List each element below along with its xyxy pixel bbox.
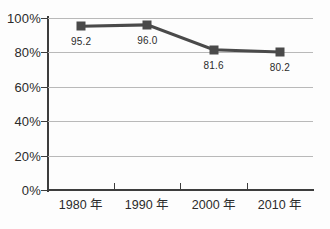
x-axis-label-1990: 1990 年 xyxy=(125,194,169,213)
line-chart: 100% 80% 60% 40% 20% 0% 95.2 96.0 81.6 8… xyxy=(0,0,330,229)
x-axis-label-2010: 2010 年 xyxy=(258,194,302,213)
y-axis-label-20: 20% xyxy=(0,149,41,164)
data-point-value: 80.2 xyxy=(270,62,290,73)
data-point-marker xyxy=(209,45,218,54)
y-axis-label-60: 60% xyxy=(0,80,41,95)
x-axis-label-2000: 2000 年 xyxy=(192,194,236,213)
x-axis-label-1980: 1980 年 xyxy=(59,194,103,213)
data-point-marker xyxy=(143,20,152,29)
x-axis-tick-boundary-2 xyxy=(180,183,181,190)
plot-area: 95.2 96.0 81.6 80.2 xyxy=(48,18,313,190)
y-axis-label-40: 40% xyxy=(0,114,41,129)
data-point-marker xyxy=(275,48,284,57)
data-point-value: 96.0 xyxy=(137,35,157,46)
y-axis-label-0: 0% xyxy=(0,183,41,198)
x-axis-tick-boundary-3 xyxy=(247,183,248,190)
y-axis-label-100: 100% xyxy=(0,11,41,26)
data-point-value: 95.2 xyxy=(71,36,91,47)
y-axis-label-80: 80% xyxy=(0,45,41,60)
x-axis-tick-boundary-1 xyxy=(114,183,115,190)
data-point-marker xyxy=(77,22,86,31)
data-point-value: 81.6 xyxy=(203,60,223,71)
